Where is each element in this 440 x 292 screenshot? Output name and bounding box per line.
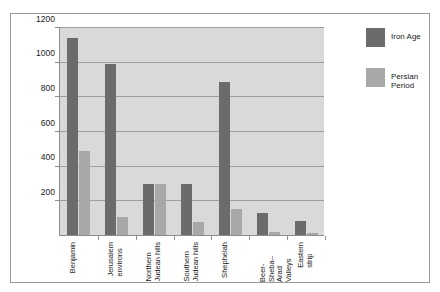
bar-iron-age xyxy=(181,184,192,236)
bar-iron-age xyxy=(105,64,116,236)
plot-area: 20040060080010001200 xyxy=(59,28,324,236)
y-tick-label-800: 800 xyxy=(41,83,55,93)
bar-group xyxy=(295,28,318,236)
legend-swatch-persian-period xyxy=(366,68,385,87)
x-axis-label: Jerusalem environs xyxy=(107,242,124,277)
y-tick-label-600: 600 xyxy=(41,118,55,128)
bar-iron-age xyxy=(257,213,268,236)
x-axis-label: Northern Judean hills xyxy=(145,242,162,282)
x-tick-mark xyxy=(136,236,137,240)
y-tick-mark-1000 xyxy=(55,62,60,63)
y-tick-label-400: 400 xyxy=(41,152,55,162)
bar-group xyxy=(219,28,242,236)
bar-iron-age xyxy=(219,82,230,236)
bar-persian-period xyxy=(155,184,166,236)
x-axis-baseline xyxy=(60,235,324,236)
bar-iron-age xyxy=(67,38,78,236)
y-tick-mark-200 xyxy=(55,200,60,201)
x-tick-mark xyxy=(325,236,326,240)
x-tick-mark xyxy=(174,236,175,240)
y-tick-mark-800 xyxy=(55,96,60,97)
y-tick-label-1200: 1200 xyxy=(36,14,55,24)
x-tick-mark xyxy=(287,236,288,240)
bar-persian-period xyxy=(231,209,242,236)
chart-figure: 20040060080010001200 BenjaminJerusalem e… xyxy=(10,13,430,283)
bar-group xyxy=(105,28,128,236)
bar-persian-period xyxy=(79,151,90,236)
bar-persian-period xyxy=(117,217,128,236)
y-tick-label-200: 200 xyxy=(41,187,55,197)
x-axis-label: Shephelah xyxy=(221,242,230,278)
x-tick-mark xyxy=(249,236,250,240)
y-tick-mark-1200 xyxy=(55,27,60,28)
legend-item-persian-period: Persian Period xyxy=(366,68,426,94)
y-tick-label-1000: 1000 xyxy=(36,48,55,58)
legend-swatch-iron-age xyxy=(366,28,385,47)
bar-iron-age xyxy=(143,184,154,236)
y-tick-mark-600 xyxy=(55,131,60,132)
bar-group xyxy=(143,28,166,236)
x-tick-mark xyxy=(211,236,212,240)
legend-label-iron-age: Iron Age xyxy=(391,32,431,41)
x-tick-mark xyxy=(98,236,99,240)
x-axis-label: Beer-Sheba– Arad Valleys xyxy=(259,242,293,282)
legend-label-persian-period: Persian Period xyxy=(391,72,431,90)
bar-group xyxy=(257,28,280,236)
bar-group xyxy=(67,28,90,236)
chart-legend: Iron Age Persian Period xyxy=(366,28,426,108)
bar-persian-period xyxy=(193,222,204,236)
bar-group xyxy=(181,28,204,236)
legend-item-iron-age: Iron Age xyxy=(366,28,426,54)
y-tick-mark-400 xyxy=(55,166,60,167)
x-axis-label: Southern Judean hills xyxy=(183,242,200,282)
bar-iron-age xyxy=(295,221,306,236)
x-axis-label: Benjamin xyxy=(69,242,78,273)
x-axis-label: Eastern strip xyxy=(297,242,314,268)
